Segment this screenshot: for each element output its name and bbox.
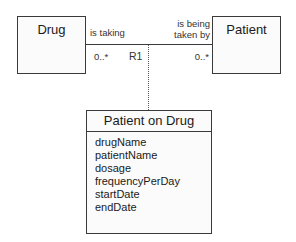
attribute: startDate bbox=[95, 188, 211, 201]
attribute: patientName bbox=[95, 149, 211, 162]
class-drug-name: Drug bbox=[18, 17, 85, 37]
attribute: frequencyPerDay bbox=[95, 175, 211, 188]
right-role-phrase-line1: is being bbox=[177, 18, 210, 29]
left-multiplicity: 0..* bbox=[94, 51, 108, 62]
attribute: drugName bbox=[95, 136, 211, 149]
class-patient: Patient bbox=[212, 16, 281, 74]
class-patient-name: Patient bbox=[213, 17, 280, 37]
right-multiplicity: 0..* bbox=[195, 51, 209, 62]
attribute-list: drugName patientName dosage frequencyPer… bbox=[87, 132, 211, 214]
attribute: endDate bbox=[95, 201, 211, 214]
association-class-connector bbox=[148, 45, 149, 110]
left-role-phrase: is taking bbox=[90, 27, 125, 38]
association-line bbox=[86, 44, 212, 45]
association-id: R1 bbox=[129, 51, 142, 62]
attribute: dosage bbox=[95, 162, 211, 175]
class-drug: Drug bbox=[17, 16, 86, 74]
association-class: Patient on Drug drugName patientName dos… bbox=[86, 110, 212, 234]
right-role-phrase-line2: taken by bbox=[174, 29, 210, 40]
association-class-name: Patient on Drug bbox=[87, 111, 211, 132]
